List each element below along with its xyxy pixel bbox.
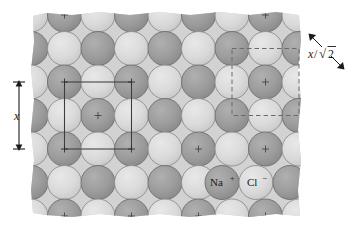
sodium-ion xyxy=(14,32,48,66)
chloride-ion xyxy=(215,132,249,166)
dimension-label-diagonal: x / √ 2 xyxy=(307,46,336,61)
lattice-row xyxy=(14,199,316,228)
chloride-ion xyxy=(215,199,249,228)
chloride-ion xyxy=(115,166,149,200)
dimension-label-x: x xyxy=(13,109,20,123)
chloride-ion xyxy=(148,199,182,228)
lattice-row xyxy=(14,65,316,99)
sodium-ion xyxy=(148,32,182,66)
sodium-label-text: Na xyxy=(210,176,223,188)
chloride-ion xyxy=(182,99,216,133)
sodium-ion xyxy=(115,0,149,32)
chloride-ion xyxy=(282,132,316,166)
lattice-row xyxy=(14,0,316,32)
chloride-ion xyxy=(48,166,82,200)
diagonal-radical: √ xyxy=(319,46,327,61)
sodium-charge-text: + xyxy=(230,174,235,183)
sodium-ion xyxy=(148,99,182,133)
lattice-row xyxy=(14,99,316,133)
figure-canvas: x x / √ 2 Na + Cl − xyxy=(0,0,359,228)
chloride-ion xyxy=(48,32,82,66)
chloride-ion xyxy=(182,32,216,66)
chloride-ion xyxy=(14,199,48,228)
sodium-ion xyxy=(81,166,115,200)
sodium-ion xyxy=(182,65,216,99)
diagonal-numerator: x xyxy=(307,47,314,61)
chloride-ion xyxy=(148,0,182,32)
chloride-ion xyxy=(215,0,249,32)
chloride-ion xyxy=(148,65,182,99)
sodium-ion xyxy=(273,166,307,200)
diagonal-radicand: 2 xyxy=(328,47,334,61)
chloride-ion xyxy=(81,199,115,228)
diagonal-slash: / xyxy=(314,47,318,61)
chloride-ion xyxy=(115,32,149,66)
chloride-ion xyxy=(282,0,316,32)
sodium-ion xyxy=(182,0,216,32)
chloride-ion xyxy=(282,199,316,228)
lattice-svg: x x / √ 2 Na + Cl − xyxy=(0,0,359,228)
sodium-ion xyxy=(148,166,182,200)
lattice-row xyxy=(14,132,316,166)
chloride-charge-text: − xyxy=(262,173,267,183)
chloride-ion xyxy=(14,0,48,32)
chloride-ion xyxy=(81,0,115,32)
chloride-ion xyxy=(148,132,182,166)
chloride-label-text: Cl xyxy=(247,176,257,188)
sodium-ion xyxy=(14,166,48,200)
sodium-ion xyxy=(81,32,115,66)
